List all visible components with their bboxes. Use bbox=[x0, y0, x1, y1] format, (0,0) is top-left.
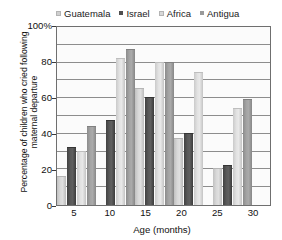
bar-africa-20[interactable] bbox=[194, 72, 203, 205]
bar-group-10 bbox=[96, 27, 135, 205]
bar-africa-5[interactable] bbox=[77, 151, 86, 205]
square-swatch-icon bbox=[200, 11, 204, 15]
bar-israel-15[interactable] bbox=[145, 97, 154, 205]
bar-chart: GuatemalaIsraelAfricaAntigua Percentage … bbox=[0, 0, 282, 240]
bar-africa-15[interactable] bbox=[155, 62, 164, 205]
y-tick-label: 20 bbox=[41, 165, 52, 175]
y-tick-mark bbox=[52, 206, 56, 207]
bar-antigua-10[interactable] bbox=[126, 49, 135, 205]
legend-item-israel[interactable]: Israel bbox=[119, 9, 149, 19]
bar-group-15 bbox=[135, 27, 174, 205]
legend-item-africa[interactable]: Africa bbox=[159, 9, 191, 19]
y-axis-ticks: 020406080100% bbox=[0, 26, 56, 206]
plot-area bbox=[56, 26, 271, 206]
bar-groups bbox=[57, 27, 270, 205]
x-tick-label: 20 bbox=[163, 208, 199, 222]
x-tick-label: 5 bbox=[56, 208, 92, 222]
legend-item-antigua[interactable]: Antigua bbox=[200, 9, 239, 19]
y-tick-label: 80 bbox=[41, 57, 52, 67]
bar-israel-20[interactable] bbox=[184, 133, 193, 205]
square-swatch-icon bbox=[56, 11, 61, 16]
bar-africa-10[interactable] bbox=[116, 58, 125, 205]
bar-israel-5[interactable] bbox=[67, 147, 76, 205]
x-tick-label: 15 bbox=[128, 208, 164, 222]
bar-guatemala-5[interactable] bbox=[57, 176, 66, 205]
square-swatch-icon bbox=[159, 11, 164, 16]
bar-group-20 bbox=[174, 27, 213, 205]
bar-israel-10[interactable] bbox=[106, 120, 115, 205]
legend-label: Antigua bbox=[207, 9, 239, 19]
y-tick-label: 100% bbox=[27, 21, 52, 31]
legend-label: Israel bbox=[126, 9, 149, 19]
legend-item-guatemala[interactable]: Guatemala bbox=[56, 9, 110, 19]
bar-group-5 bbox=[57, 27, 96, 205]
x-tick-label: 30 bbox=[235, 208, 271, 222]
x-tick-label: 25 bbox=[199, 208, 235, 222]
bar-antigua-25[interactable] bbox=[243, 99, 252, 205]
legend-label: Guatemala bbox=[64, 9, 110, 19]
bar-guatemala-25[interactable] bbox=[213, 168, 222, 205]
bar-israel-25[interactable] bbox=[223, 165, 232, 205]
bar-group-25 bbox=[213, 27, 252, 205]
x-axis-ticks: 51015202530 bbox=[56, 208, 271, 222]
y-tick-label: 40 bbox=[41, 129, 52, 139]
x-tick-label: 10 bbox=[92, 208, 128, 222]
chart-legend: GuatemalaIsraelAfricaAntigua bbox=[56, 7, 274, 20]
square-swatch-icon bbox=[119, 11, 123, 15]
bar-guatemala-20[interactable] bbox=[174, 138, 183, 205]
bar-africa-25[interactable] bbox=[233, 108, 242, 205]
bar-antigua-5[interactable] bbox=[87, 126, 96, 205]
y-tick-label: 60 bbox=[41, 93, 52, 103]
bar-group-30 bbox=[252, 27, 282, 205]
bar-guatemala-15[interactable] bbox=[135, 88, 144, 205]
legend-label: Africa bbox=[167, 9, 191, 19]
bar-antigua-15[interactable] bbox=[165, 62, 174, 205]
x-axis-title: Age (months) bbox=[62, 224, 262, 235]
